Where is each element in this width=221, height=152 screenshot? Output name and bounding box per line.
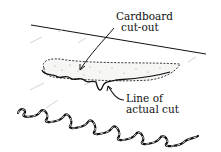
cut-label-line-2: actual cut [126, 104, 179, 115]
cardboard-label-line-2: cut-out [116, 22, 173, 33]
cardboard-cutout-label: Cardboardcut-out [116, 11, 173, 33]
diagram-illustration [0, 0, 221, 152]
cardboard-cutout-shape [43, 59, 180, 81]
diagram-canvas: Cardboardcut-out Line ofactual cut [0, 0, 221, 152]
actual-cut-label: Line ofactual cut [126, 93, 179, 115]
